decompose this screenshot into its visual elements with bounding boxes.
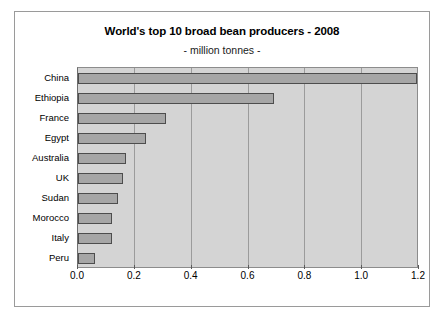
- y-axis-category-labels: ChinaEthiopiaFranceEgyptAustraliaUKSudan…: [15, 67, 73, 268]
- bar-egypt[interactable]: [78, 133, 146, 144]
- bar-peru[interactable]: [78, 253, 95, 264]
- bar-row[interactable]: [78, 209, 417, 229]
- y-axis-label-egypt: Egypt: [45, 127, 69, 147]
- plot-area: [77, 67, 418, 268]
- chart-subtitle: - million tonnes -: [15, 43, 429, 57]
- bar-china[interactable]: [78, 73, 417, 84]
- x-axis-tick: [418, 265, 419, 269]
- title-block: World's top 10 broad bean producers - 20…: [15, 24, 429, 57]
- bar-row[interactable]: [78, 148, 417, 168]
- y-axis-label-peru: Peru: [49, 248, 69, 268]
- x-axis-label-1-0: 1.0: [354, 270, 368, 281]
- x-axis-label-0-6: 0.6: [241, 270, 255, 281]
- x-axis-tick: [134, 265, 135, 269]
- bar-row[interactable]: [78, 189, 417, 209]
- bar-italy[interactable]: [78, 233, 112, 244]
- x-axis-tick: [77, 265, 78, 269]
- x-axis-label-1-2: 1.2: [411, 270, 425, 281]
- x-axis-tick: [361, 265, 362, 269]
- y-axis-label-australia: Australia: [32, 147, 69, 167]
- bar-row[interactable]: [78, 68, 417, 88]
- y-axis-label-france: France: [39, 107, 69, 127]
- bar-france[interactable]: [78, 113, 166, 124]
- bar-row[interactable]: [78, 169, 417, 189]
- x-axis-tick: [248, 265, 249, 269]
- bar-australia[interactable]: [78, 153, 126, 164]
- bar-row[interactable]: [78, 88, 417, 108]
- x-axis-label-0-4: 0.4: [184, 270, 198, 281]
- x-axis-label-0-2: 0.2: [127, 270, 141, 281]
- bar-uk[interactable]: [78, 173, 123, 184]
- bars-layer: [78, 68, 417, 267]
- bar-morocco[interactable]: [78, 213, 112, 224]
- y-axis-label-italy: Italy: [52, 228, 69, 248]
- x-axis-label-0-0: 0.0: [70, 270, 84, 281]
- x-axis-tick: [304, 265, 305, 269]
- y-axis-label-uk: UK: [56, 168, 69, 188]
- plot-wrapper: [77, 67, 418, 268]
- x-axis-tick: [191, 265, 192, 269]
- y-axis-label-ethiopia: Ethiopia: [35, 87, 69, 107]
- y-axis-label-sudan: Sudan: [42, 188, 69, 208]
- bar-row[interactable]: [78, 108, 417, 128]
- x-axis-label-0-8: 0.8: [297, 270, 311, 281]
- x-axis-tick-labels: 0.00.20.40.60.81.01.2: [77, 270, 418, 290]
- y-axis-label-china: China: [44, 67, 69, 87]
- y-axis-label-morocco: Morocco: [33, 208, 69, 228]
- bar-ethiopia[interactable]: [78, 93, 274, 104]
- chart-frame: World's top 10 broad bean producers - 20…: [14, 11, 430, 307]
- bar-row[interactable]: [78, 128, 417, 148]
- page-title: World's top 10 broad bean producers - 20…: [15, 24, 429, 38]
- bar-sudan[interactable]: [78, 193, 118, 204]
- bar-row[interactable]: [78, 229, 417, 249]
